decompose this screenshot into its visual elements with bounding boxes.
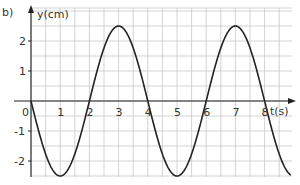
sine-wave-chart: 01234567821-1-2 b) y(cm) t(s) <box>0 0 300 185</box>
y-tick-label: -2 <box>14 155 25 168</box>
x-tick-label: 0 <box>22 106 29 119</box>
x-tick-label: 7 <box>232 106 239 119</box>
y-axis-label: y(cm) <box>37 8 69 21</box>
y-tick-label: -1 <box>14 125 25 138</box>
x-tick-label: 4 <box>145 106 152 119</box>
x-axis-label: t(s) <box>270 105 289 118</box>
y-tick-label: 1 <box>19 65 26 78</box>
axes <box>14 5 296 177</box>
figure-label: b) <box>2 6 13 19</box>
x-tick-label: 5 <box>174 106 181 119</box>
x-tick-label: 8 <box>262 106 269 119</box>
x-tick-label: 6 <box>203 106 210 119</box>
x-tick-label: 1 <box>57 106 64 119</box>
x-tick-label: 2 <box>86 106 93 119</box>
y-tick-label: 2 <box>19 35 26 48</box>
x-tick-label: 3 <box>116 106 123 119</box>
